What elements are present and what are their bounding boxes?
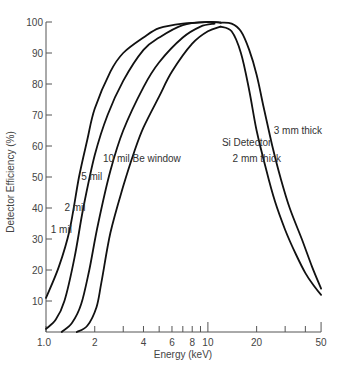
x-tick-label: 6 (169, 337, 175, 348)
x-tick-label: 8 (189, 337, 195, 348)
y-tick-label: 60 (32, 141, 44, 152)
x-tick-label: 1.0 (37, 337, 51, 348)
y-axis-title: Detector Efficiency (%) (5, 131, 16, 233)
y-tick-label: 10 (32, 296, 44, 307)
y-tick-label: 20 (32, 265, 44, 276)
y-tick-label: 50 (32, 172, 44, 183)
curve-2-mil (46, 22, 221, 329)
y-tick-label: 90 (32, 48, 44, 59)
detector-efficiency-chart: 1020304050607080901001.02468102050 1 mil… (0, 0, 338, 373)
y-tick-label: 70 (32, 110, 44, 121)
curve-label: 3 mm thick (274, 125, 323, 136)
curve-label: 1 mil (51, 224, 72, 235)
y-tick-label: 80 (32, 79, 44, 90)
y-tick-label: 30 (32, 234, 44, 245)
curve-label: 10 mil Be window (103, 153, 182, 164)
curve-label: Si Detector (222, 137, 272, 148)
curve-label: 2 mm thick (233, 153, 282, 164)
curve-label: 5 mil (81, 171, 102, 182)
x-tick-label: 2 (92, 337, 98, 348)
x-tick-label: 20 (251, 337, 263, 348)
x-axis-title: Energy (keV) (154, 349, 212, 360)
x-tick-label: 4 (141, 337, 147, 348)
x-tick-label: 50 (316, 337, 328, 348)
curve-label: 2 mil (64, 202, 85, 213)
y-tick-label: 100 (26, 17, 43, 28)
y-tick-label: 40 (32, 203, 44, 214)
x-tick-label: 10 (202, 337, 214, 348)
curve-annotations: 1 mil2 mil5 mil10 mil Be windowSi Detect… (51, 125, 323, 235)
